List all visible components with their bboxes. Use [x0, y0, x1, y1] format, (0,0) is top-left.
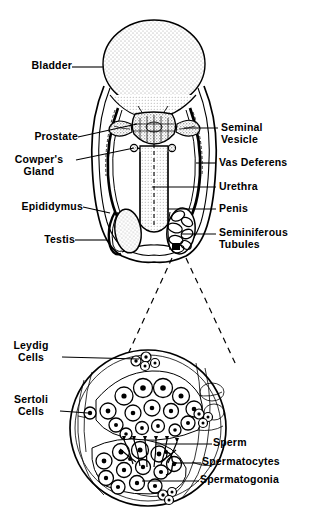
label-prostate: Prostate — [2, 131, 78, 143]
label-sperm: Sperm — [213, 437, 317, 449]
label-testis: Testis — [2, 234, 75, 246]
label-cowpers-gland: Cowper's Gland — [2, 154, 76, 177]
label-seminal-vesicle: Seminal Vesicle — [221, 122, 316, 145]
label-vas-deferens: Vas Deferens — [219, 157, 318, 169]
prostate-organ — [132, 112, 175, 144]
label-spermatogonia: Spermatogonia — [200, 474, 318, 486]
label-urethra: Urethra — [219, 181, 314, 193]
label-leydig-cells: Leydig Cells — [2, 340, 60, 363]
label-penis: Penis — [219, 203, 314, 215]
label-sertoli-cells: Sertoli Cells — [2, 394, 60, 417]
label-spermatocytes: Spermatocytes — [202, 456, 318, 468]
label-bladder: Bladder — [2, 60, 72, 72]
label-seminiferous-tubules: Seminiferous Tubules — [219, 227, 318, 250]
label-epididymus: Epididymus — [2, 201, 83, 213]
